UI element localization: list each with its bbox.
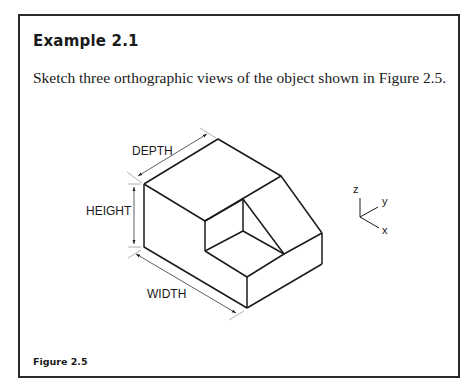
axis-triad-icon <box>360 198 379 228</box>
height-label: HEIGHT <box>86 204 132 218</box>
z-axis-label: z <box>353 183 359 195</box>
y-axis-label: y <box>382 195 388 207</box>
isometric-figure: DEPTH HEIGHT WIDTH z y x <box>0 0 474 389</box>
width-label: WIDTH <box>147 287 186 301</box>
depth-label: DEPTH <box>132 144 173 158</box>
width-dimension-line <box>136 254 236 313</box>
x-axis-label: x <box>382 224 388 236</box>
object-drawing <box>144 139 322 308</box>
